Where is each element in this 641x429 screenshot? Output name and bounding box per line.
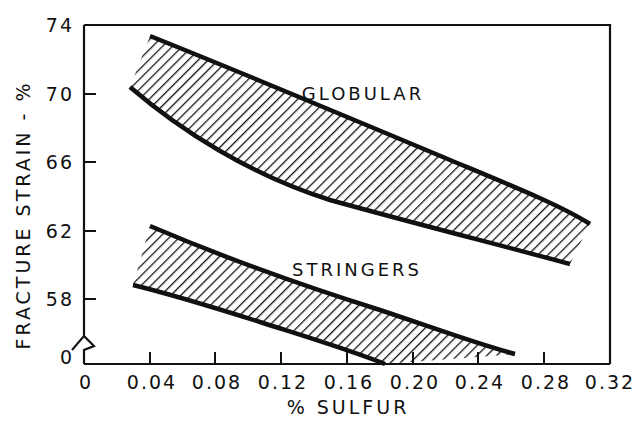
x-tick-label: 0.32 [585,371,635,393]
y-tick-label: 58 [46,288,74,310]
stringers-label: STRINGERS [292,259,422,280]
y-tick-label: 70 [46,83,74,105]
globular-label: GLOBULAR [302,83,424,104]
y-tick-label: 62 [46,220,74,242]
x-tick-label: 0.08 [192,371,242,393]
y-axis [84,25,94,364]
y-tick-labels: 74 70 66 62 58 0 [46,14,74,368]
stringers-band [133,226,515,364]
x-tick-label: 0.28 [521,371,571,393]
x-tick-label: 0.04 [127,371,177,393]
y-origin-label: 0 [60,346,74,368]
y-ticks [84,94,96,299]
y-axis-title: FRACTURE STRAIN - % [12,81,34,350]
x-tick-label: 0.24 [455,371,505,393]
x-tick-label: 0.12 [258,371,308,393]
y-tick-label: 74 [46,14,74,36]
x-tick-label: 0 [79,371,93,393]
fracture-strain-chart: 74 70 66 62 58 0 0 0.04 0.08 0.12 0.16 0… [0,0,641,429]
globular-band [130,36,590,264]
x-axis-title: % SULFUR [287,396,410,418]
x-tick-label: 0.16 [324,371,374,393]
x-tick-labels: 0 0.04 0.08 0.12 0.16 0.20 0.24 0.28 0.3… [79,371,635,393]
y-tick-label: 66 [46,151,74,173]
x-tick-label: 0.20 [390,371,440,393]
